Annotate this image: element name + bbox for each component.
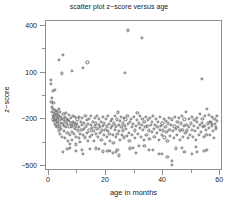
data-point bbox=[133, 137, 136, 140]
data-point bbox=[197, 133, 200, 136]
data-point bbox=[142, 138, 145, 141]
data-point bbox=[192, 124, 195, 127]
data-point bbox=[146, 124, 149, 127]
data-point bbox=[140, 123, 143, 126]
data-point bbox=[80, 116, 83, 119]
data-point bbox=[168, 128, 171, 131]
y-axis-label: z−score bbox=[2, 78, 11, 122]
data-point bbox=[124, 118, 127, 121]
data-point bbox=[127, 29, 130, 32]
data-point bbox=[166, 140, 169, 143]
data-point bbox=[194, 138, 197, 141]
data-point bbox=[83, 136, 86, 139]
data-point bbox=[77, 137, 80, 140]
data-point bbox=[100, 138, 103, 141]
data-point bbox=[96, 135, 99, 138]
scatter-plot-figure: scatter plot z−score versus age 400100−2… bbox=[0, 0, 238, 204]
data-point bbox=[54, 88, 57, 91]
data-point bbox=[74, 149, 77, 152]
data-point bbox=[114, 135, 117, 138]
x-tick-mark bbox=[162, 170, 163, 175]
x-tick-mark bbox=[105, 170, 106, 175]
data-point bbox=[66, 148, 69, 151]
data-point bbox=[69, 146, 72, 149]
x-minor-tick-mark bbox=[134, 170, 135, 173]
data-point bbox=[82, 152, 85, 155]
data-point bbox=[169, 134, 172, 137]
data-point bbox=[194, 145, 197, 148]
data-point bbox=[103, 142, 106, 145]
data-point bbox=[203, 124, 206, 127]
data-point bbox=[191, 152, 194, 155]
x-minor-tick-mark bbox=[76, 170, 77, 173]
data-point bbox=[128, 140, 131, 143]
data-point bbox=[148, 137, 151, 140]
data-point bbox=[113, 128, 116, 131]
data-point bbox=[112, 141, 115, 144]
data-point bbox=[62, 151, 65, 154]
data-point bbox=[150, 130, 153, 133]
data-point bbox=[145, 133, 148, 136]
data-point bbox=[49, 82, 52, 85]
data-point bbox=[180, 146, 183, 149]
data-point bbox=[62, 53, 65, 56]
data-point bbox=[147, 148, 150, 151]
data-point bbox=[199, 112, 202, 115]
data-point bbox=[178, 138, 181, 141]
y-minor-tick-mark bbox=[42, 48, 45, 49]
data-point bbox=[155, 131, 158, 134]
data-point bbox=[131, 146, 134, 149]
data-point bbox=[82, 66, 85, 69]
data-point bbox=[86, 140, 89, 143]
data-point bbox=[173, 115, 176, 118]
y-tick-mark bbox=[40, 118, 45, 119]
data-point bbox=[123, 71, 126, 74]
data-point bbox=[137, 144, 140, 147]
data-point bbox=[170, 159, 173, 162]
data-point bbox=[200, 77, 203, 80]
data-point bbox=[49, 78, 52, 81]
data-point bbox=[151, 148, 154, 151]
data-point bbox=[116, 111, 119, 114]
x-axis-label: age in months bbox=[45, 188, 222, 197]
data-point bbox=[157, 138, 160, 141]
chart-title: scatter plot z−score versus age bbox=[0, 3, 238, 10]
x-tick-label: 40 bbox=[158, 176, 166, 183]
x-tick-mark bbox=[48, 170, 49, 175]
data-point bbox=[60, 72, 63, 75]
y-tick-mark bbox=[40, 72, 45, 73]
data-point bbox=[126, 114, 129, 117]
data-point bbox=[181, 135, 184, 138]
data-point bbox=[212, 137, 215, 140]
data-point bbox=[149, 123, 152, 126]
data-point bbox=[161, 122, 164, 125]
x-minor-tick-mark bbox=[191, 170, 192, 173]
data-point bbox=[89, 148, 92, 151]
data-point bbox=[92, 140, 95, 143]
data-point bbox=[82, 121, 85, 124]
data-point bbox=[193, 130, 196, 133]
data-point bbox=[105, 135, 108, 138]
data-point bbox=[117, 154, 120, 157]
y-minor-tick-mark bbox=[42, 142, 45, 143]
data-point bbox=[196, 151, 199, 154]
scatter-points-layer bbox=[46, 21, 221, 169]
data-point bbox=[133, 129, 136, 132]
data-point bbox=[206, 148, 209, 151]
data-point bbox=[174, 147, 177, 150]
data-point bbox=[163, 136, 166, 139]
data-point bbox=[156, 120, 159, 123]
x-tick-label: 20 bbox=[101, 176, 109, 183]
data-point bbox=[50, 96, 53, 99]
data-point bbox=[209, 133, 212, 136]
data-point bbox=[160, 152, 163, 155]
x-tick-mark bbox=[219, 170, 220, 175]
data-point bbox=[143, 144, 146, 147]
data-point bbox=[125, 134, 128, 137]
data-point bbox=[153, 135, 156, 138]
plot-area bbox=[45, 20, 222, 170]
x-tick-label: 0 bbox=[46, 176, 50, 183]
data-point bbox=[80, 148, 83, 151]
data-point bbox=[52, 101, 55, 104]
data-point bbox=[184, 110, 187, 113]
